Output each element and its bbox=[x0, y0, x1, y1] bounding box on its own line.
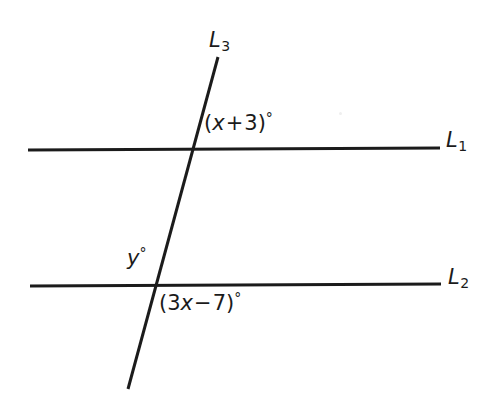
angle-lower-right-constant: 7 bbox=[213, 291, 226, 315]
line-label-l1-subscript: 1 bbox=[458, 138, 467, 154]
page-artifact-speck bbox=[339, 112, 342, 115]
line-label-l2: L2 bbox=[448, 267, 469, 290]
angle-upper-open-paren: ( bbox=[204, 111, 212, 135]
line-label-l2-name: L bbox=[448, 265, 460, 289]
angle-label-lower-left: y° bbox=[127, 246, 146, 269]
line-label-l3: L3 bbox=[209, 30, 230, 53]
angle-upper-close-paren: ) bbox=[258, 111, 266, 135]
angle-lower-left-variable: y bbox=[127, 246, 139, 270]
line-l3-transversal bbox=[128, 57, 218, 389]
geometry-figure: L1 L2 L3 (x+3)° y° (3x−7)° bbox=[0, 0, 496, 418]
line-l1 bbox=[28, 148, 440, 150]
angle-lower-right-degree-symbol: ° bbox=[234, 290, 241, 306]
angle-upper-degree-symbol: ° bbox=[266, 110, 273, 126]
angle-lower-right-variable: x bbox=[181, 291, 193, 315]
diagram-canvas bbox=[0, 0, 496, 418]
line-l2 bbox=[30, 284, 441, 286]
line-label-l2-subscript: 2 bbox=[460, 275, 469, 291]
angle-upper-constant: 3 bbox=[244, 111, 257, 135]
line-label-l1-name: L bbox=[446, 128, 458, 152]
angle-lower-right-operator: − bbox=[193, 291, 213, 315]
angle-label-upper: (x+3)° bbox=[204, 111, 273, 134]
angle-lower-left-degree-symbol: ° bbox=[139, 245, 146, 261]
line-label-l3-subscript: 3 bbox=[221, 38, 230, 54]
line-label-l1: L1 bbox=[446, 130, 467, 153]
angle-lower-right-close-paren: ) bbox=[226, 291, 234, 315]
angle-lower-right-open-paren: ( bbox=[159, 291, 167, 315]
line-label-l3-name: L bbox=[209, 28, 221, 52]
angle-label-lower-right: (3x−7)° bbox=[159, 291, 241, 314]
angle-lower-right-coefficient: 3 bbox=[167, 291, 180, 315]
angle-upper-variable: x bbox=[212, 111, 224, 135]
angle-upper-operator: + bbox=[225, 111, 245, 135]
